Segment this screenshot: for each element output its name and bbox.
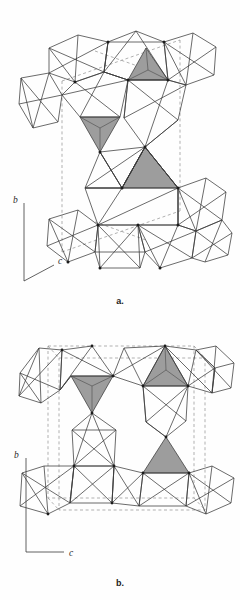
panel-a-caption: a.: [0, 296, 240, 306]
polyhedra-framework-a: [19, 31, 232, 268]
axis-label-b-a: b: [13, 195, 18, 205]
axis-label-c-b: c: [69, 548, 74, 558]
panel-a: b c a.: [0, 0, 240, 318]
axis-indicator-b: [26, 458, 64, 552]
panel-b-drawing: b c: [0, 318, 240, 600]
panel-b-caption: b.: [0, 578, 240, 588]
panel-a-drawing: b c: [0, 0, 240, 300]
axis-label-b-b: b: [14, 450, 19, 460]
panel-b: b c b.: [0, 318, 240, 600]
polyhedra-framework-b: [19, 346, 234, 514]
crystal-structure-figure: b c a.: [0, 0, 240, 600]
